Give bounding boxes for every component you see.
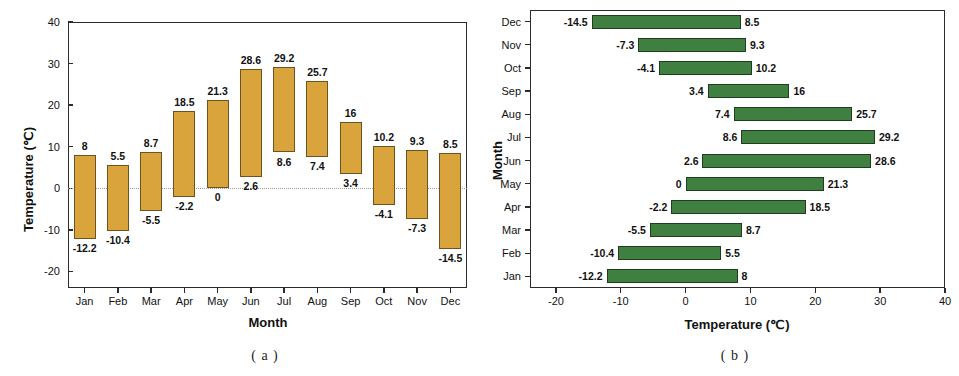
bar-min-label-b: -10.4 [590, 248, 614, 259]
y-tick-label-b: Feb [502, 248, 521, 259]
x-tick-mark-b [685, 288, 686, 293]
y-tick-mark-b [525, 183, 530, 184]
panel-caption-a: ( a ) [251, 348, 279, 364]
x-tick-label-a: Oct [375, 296, 392, 307]
y-tick-mark-b [525, 276, 530, 277]
x-tick-mark-b [620, 288, 621, 293]
x-tick-label-b: 20 [809, 296, 821, 307]
y-tick-mark-b [525, 229, 530, 230]
bar-max-label-b: 8.7 [746, 225, 761, 236]
x-tick-label-a: May [207, 296, 228, 307]
bar-min-label-b: -14.5 [564, 17, 588, 28]
bar-min-label-a: 7.4 [310, 161, 325, 172]
y-tick-mark-a [68, 271, 73, 272]
bar-min-label-a: -14.5 [438, 253, 462, 264]
bar-range-a [140, 152, 162, 211]
x-tick-mark-b [944, 288, 945, 293]
bar-max-label-a: 28.6 [241, 55, 261, 66]
x-tick-mark-a [84, 288, 85, 293]
bar-range-b [592, 15, 741, 29]
x-tick-label-a: Jun [242, 296, 260, 307]
bar-min-label-a: -12.2 [73, 243, 97, 254]
bar-range-a [207, 100, 229, 189]
x-tick-mark-b [555, 288, 556, 293]
y-tick-label-b: Oct [504, 62, 521, 73]
bar-max-label-b: 29.2 [879, 132, 899, 143]
y-tick-label-a: 10 [48, 141, 60, 152]
x-tick-mark-a [416, 288, 417, 293]
bar-min-label-a: 8.6 [277, 157, 292, 168]
bar-max-label-b: 10.2 [756, 63, 776, 74]
x-tick-label-b: 40 [939, 296, 951, 307]
y-axis-title-b: Month [491, 141, 504, 180]
bar-range-b [708, 84, 790, 98]
x-tick-label-a: Sep [341, 296, 361, 307]
x-tick-mark-a [283, 288, 284, 293]
bar-range-a [340, 122, 362, 174]
bar-range-b [638, 38, 746, 52]
x-tick-mark-a [184, 288, 185, 293]
y-tick-mark-b [525, 44, 530, 45]
x-tick-mark-b [815, 288, 816, 293]
x-tick-label-a: Jul [277, 296, 291, 307]
x-tick-mark-a [450, 288, 451, 293]
bar-min-label-b: -5.5 [628, 225, 646, 236]
bar-range-b [741, 130, 875, 144]
bar-max-label-b: 8.5 [745, 17, 760, 28]
y-tick-mark-b [525, 21, 530, 22]
bar-min-label-a: -4.1 [375, 209, 393, 220]
y-tick-label-b: Dec [501, 16, 521, 27]
y-tick-label-b: Apr [504, 201, 521, 212]
x-tick-mark-a [317, 288, 318, 293]
bar-min-label-b: 0 [676, 179, 682, 190]
bar-max-label-b: 28.6 [875, 156, 895, 167]
bar-min-label-b: -4.1 [637, 63, 655, 74]
bar-min-label-a: -5.5 [142, 215, 160, 226]
chart-panel-b: -20-10010203040DecNovOctSepAugJulJunMayA… [479, 0, 959, 376]
bar-min-label-a: -7.3 [408, 223, 426, 234]
bar-range-b [671, 200, 805, 214]
bar-range-a [439, 153, 461, 249]
bar-range-a [107, 165, 129, 231]
x-tick-label-b: -10 [613, 296, 629, 307]
y-tick-label-a: 20 [48, 100, 60, 111]
x-tick-label-a: Feb [108, 296, 127, 307]
bar-range-b [659, 61, 752, 75]
y-tick-mark-a [68, 146, 73, 147]
y-tick-label-a: 30 [48, 58, 60, 69]
bar-min-label-a: 3.4 [343, 178, 358, 189]
y-tick-mark-b [525, 253, 530, 254]
bar-range-a [173, 111, 195, 197]
bar-max-label-b: 8 [742, 271, 748, 282]
bar-range-a [74, 155, 96, 239]
y-tick-label-a: 0 [54, 183, 60, 194]
x-tick-mark-a [383, 288, 384, 293]
bar-range-a [306, 81, 328, 157]
y-tick-label-a: -20 [44, 266, 60, 277]
bar-range-b [686, 177, 824, 191]
bar-max-label-a: 21.3 [207, 86, 227, 97]
y-tick-label-b: Mar [502, 225, 521, 236]
x-tick-mark-a [250, 288, 251, 293]
x-axis-title-b: Temperature (℃) [684, 318, 789, 331]
bar-range-a [373, 146, 395, 205]
x-tick-label-b: 30 [874, 296, 886, 307]
x-tick-label-a: Mar [142, 296, 161, 307]
bar-max-label-b: 25.7 [856, 109, 876, 120]
bar-range-b [734, 107, 853, 121]
x-tick-mark-a [217, 288, 218, 293]
x-tick-mark-b [750, 288, 751, 293]
bar-min-label-a: 2.6 [244, 181, 259, 192]
y-tick-label-b: Jun [503, 155, 521, 166]
x-tick-mark-a [350, 288, 351, 293]
bar-max-label-a: 25.7 [307, 67, 327, 78]
bar-range-a [406, 150, 428, 219]
bar-min-label-b: -12.2 [579, 271, 603, 282]
x-tick-label-b: 0 [683, 296, 689, 307]
y-tick-label-a: 40 [48, 17, 60, 28]
chart-panel-a: -20-10010203040JanFebMarAprMayJunJulAugS… [0, 0, 480, 376]
bar-max-label-a: 16 [345, 108, 357, 119]
y-tick-label-b: Jan [503, 271, 521, 282]
y-tick-mark-a [68, 229, 73, 230]
bar-max-label-a: 29.2 [274, 53, 294, 64]
